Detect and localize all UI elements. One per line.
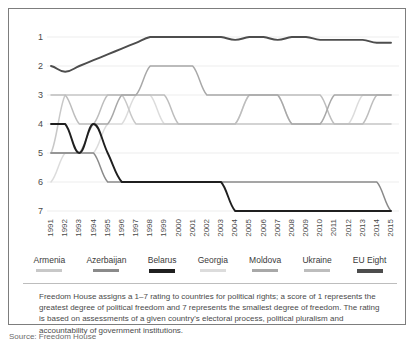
x-axis-tick-2012: 2012	[345, 219, 353, 237]
legend-item-georgia[interactable]: Georgia	[187, 255, 238, 272]
x-axis-tick-2007: 2007	[274, 219, 282, 237]
x-axis-tick-2009: 2009	[302, 219, 310, 237]
legend-swatch	[93, 269, 119, 272]
legend-swatch	[252, 269, 278, 272]
x-axis-tick-2015: 2015	[387, 219, 395, 237]
legend-divider	[23, 283, 397, 284]
y-axis-tick-5: 5	[38, 149, 43, 158]
legend-label: Georgia	[198, 255, 228, 265]
legend-swatch	[149, 269, 175, 273]
x-axis-tick-2002: 2002	[203, 219, 211, 237]
legend-label: Belarus	[148, 255, 177, 265]
y-axis-tick-2: 2	[38, 62, 43, 71]
legend-item-moldova[interactable]: Moldova	[239, 255, 292, 272]
legend-item-eu-eight[interactable]: EU Eight	[342, 255, 397, 273]
source-note: Source: Freedom House	[9, 332, 96, 342]
y-axis-labels: 1234567	[9, 9, 47, 221]
legend-swatch	[304, 269, 330, 272]
series-line-belarus	[51, 124, 391, 211]
chart-frame: 1234567 19911992199319941995199619971998…	[8, 8, 406, 325]
plot-area: 1234567	[9, 9, 407, 221]
x-axis-tick-2006: 2006	[260, 219, 268, 237]
legend-label: Moldova	[249, 255, 281, 265]
x-axis-tick-2004: 2004	[231, 219, 239, 237]
legend-label: Azerbaijan	[86, 255, 126, 265]
x-axis-tick-1999: 1999	[160, 219, 168, 237]
x-axis-tick-2011: 2011	[330, 219, 338, 236]
chart-legend: ArmeniaAzerbaijanBelarusGeorgiaMoldovaUk…	[23, 255, 397, 279]
x-axis-labels: 1991199219931994199519961997199819992000…	[47, 219, 399, 255]
legend-item-belarus[interactable]: Belarus	[137, 255, 187, 273]
y-axis-tick-6: 6	[38, 178, 43, 187]
x-axis-tick-1994: 1994	[90, 219, 98, 237]
legend-swatch	[200, 269, 226, 272]
x-axis-tick-2010: 2010	[316, 219, 324, 237]
series-line-eu-eight	[51, 37, 391, 72]
top-text-fragment	[8, 0, 188, 7]
legend-swatch	[357, 269, 383, 273]
legend-item-ukraine[interactable]: Ukraine	[292, 255, 342, 272]
legend-label: EU Eight	[353, 255, 387, 265]
x-axis-tick-1998: 1998	[146, 219, 154, 237]
legend-label: Ukraine	[302, 255, 331, 265]
y-axis-tick-3: 3	[38, 91, 43, 100]
x-axis-tick-2003: 2003	[217, 219, 225, 237]
x-axis-tick-1992: 1992	[61, 219, 69, 237]
x-axis-tick-1996: 1996	[118, 219, 126, 237]
legend-swatch	[36, 269, 62, 272]
x-axis-tick-1991: 1991	[47, 219, 55, 237]
legend-label: Armenia	[34, 255, 66, 265]
legend-item-azerbaijan[interactable]: Azerbaijan	[76, 255, 137, 272]
y-axis-tick-7: 7	[38, 207, 43, 216]
x-axis-tick-2000: 2000	[175, 219, 183, 237]
x-axis-tick-2008: 2008	[288, 219, 296, 237]
series-line-ukraine	[51, 95, 391, 124]
chart-svg	[47, 9, 399, 221]
x-axis-tick-2014: 2014	[373, 219, 381, 237]
x-axis-tick-1993: 1993	[75, 219, 83, 237]
x-axis-tick-1995: 1995	[104, 219, 112, 237]
legend-item-armenia[interactable]: Armenia	[23, 255, 76, 272]
chart-caption: Freedom House assigns a 1–7 rating to co…	[39, 291, 385, 336]
x-axis-tick-2005: 2005	[245, 219, 253, 237]
x-axis-tick-1997: 1997	[132, 219, 140, 237]
y-axis-tick-4: 4	[38, 120, 43, 129]
x-axis-tick-2013: 2013	[359, 219, 367, 237]
x-axis-tick-2001: 2001	[189, 219, 197, 237]
y-axis-tick-1: 1	[38, 33, 43, 42]
